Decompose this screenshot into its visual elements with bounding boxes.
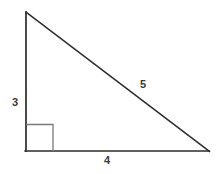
triangle-canvas xyxy=(0,0,219,174)
right-angle-square xyxy=(26,125,53,152)
label-horizontal-leg: 4 xyxy=(104,155,110,166)
right-triangle-figure: 3 4 5 xyxy=(0,0,219,174)
label-vertical-leg: 3 xyxy=(12,97,18,108)
label-hypotenuse: 5 xyxy=(140,79,146,90)
